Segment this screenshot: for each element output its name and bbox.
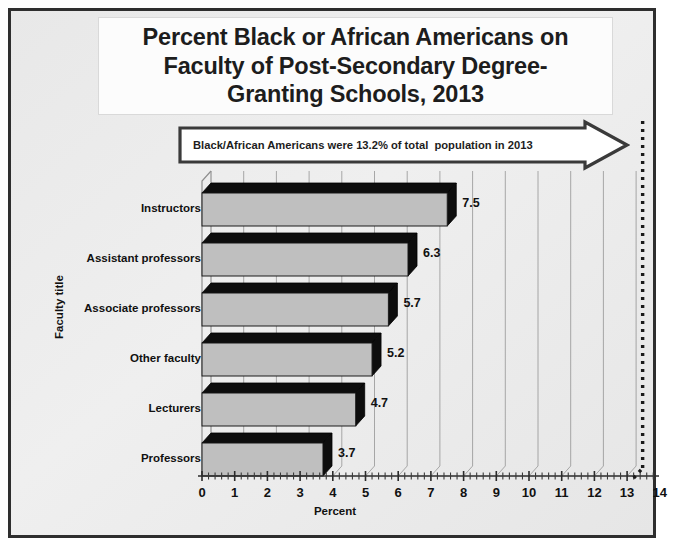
bar-value-label: 5.2 xyxy=(387,346,404,360)
bar-value-label: 3.7 xyxy=(338,446,355,460)
bar-front-face xyxy=(202,443,323,476)
bar-top-face xyxy=(202,333,381,343)
bar xyxy=(202,333,381,376)
gridline xyxy=(300,171,309,476)
x-axis-tick-label: 12 xyxy=(587,485,601,500)
bar-top-face xyxy=(202,283,397,293)
x-axis-tick-label: 7 xyxy=(427,485,434,500)
x-axis-tick-label: 11 xyxy=(555,485,569,500)
gridline xyxy=(529,171,538,476)
reference-line-group xyxy=(634,118,643,478)
y-axis-title: Faculty title xyxy=(53,247,65,367)
bar xyxy=(202,283,397,326)
page-title-line: Percent Black or African Americans on xyxy=(143,23,569,52)
bar-front-face xyxy=(202,393,356,426)
x-axis-tick-label: 2 xyxy=(264,485,271,500)
gridline xyxy=(431,171,440,476)
x-axis-tick-label: 1 xyxy=(231,485,238,500)
x-axis-tick-label: 13 xyxy=(620,485,634,500)
bar-side-face xyxy=(323,433,332,476)
bar-side-face xyxy=(447,183,456,226)
x-axis-tick-label: 9 xyxy=(493,485,500,500)
bar-value-label: 5.7 xyxy=(403,296,420,310)
bar-front-face xyxy=(202,243,408,276)
chart-frame: InstructorsAssistant professorsAssociate… xyxy=(8,8,656,538)
category-axis-label: Instructors xyxy=(31,202,201,214)
page-title-line: Granting Schools, 2013 xyxy=(143,80,569,109)
category-axis-label: Lecturers xyxy=(31,402,201,414)
page-title: Percent Black or African Americans onFac… xyxy=(137,23,575,109)
bar-front-face xyxy=(202,293,388,326)
x-axis-tick-label: 14 xyxy=(653,485,667,500)
category-axis-label: Professors xyxy=(31,452,201,464)
bar-front-face xyxy=(202,343,372,376)
gridline xyxy=(202,171,211,476)
bar xyxy=(202,233,417,276)
axis-group xyxy=(198,471,659,481)
bar-side-face xyxy=(388,283,397,326)
bar-side-face xyxy=(356,383,365,426)
x-axis-tick-label: 10 xyxy=(522,485,536,500)
x-axis-tick-label: 4 xyxy=(329,485,336,500)
page-title-line: Faculty of Post-Secondary Degree- xyxy=(143,52,569,81)
bar-value-label: 6.3 xyxy=(423,246,440,260)
bar-top-face xyxy=(202,183,456,193)
gridline xyxy=(627,171,636,476)
bar-side-face xyxy=(408,233,417,276)
bar-value-label: 4.7 xyxy=(371,396,388,410)
gridline xyxy=(496,171,505,476)
bar xyxy=(202,183,456,226)
gridline xyxy=(594,171,603,476)
x-axis-tick-label: 0 xyxy=(198,485,205,500)
bar-top-face xyxy=(202,383,365,393)
x-axis-tick-label: 5 xyxy=(362,485,369,500)
gridlines-group xyxy=(202,171,659,476)
chart-page: InstructorsAssistant professorsAssociate… xyxy=(0,0,689,552)
bar xyxy=(202,383,365,426)
x-axis-title: Percent xyxy=(11,505,659,517)
bar-front-face xyxy=(202,193,447,226)
gridline xyxy=(333,171,342,476)
gridline xyxy=(398,171,407,476)
axis-wall-edge xyxy=(202,171,211,476)
bar-side-face xyxy=(372,333,381,376)
gridline xyxy=(235,171,244,476)
x-axis-tick-label: 8 xyxy=(460,485,467,500)
x-axis-tick-label: 3 xyxy=(296,485,303,500)
bars-group xyxy=(202,183,456,476)
gridline xyxy=(366,171,375,476)
gridline xyxy=(464,171,473,476)
bar-top-face xyxy=(202,433,332,443)
gridline xyxy=(267,171,276,476)
bar-value-label: 7.5 xyxy=(462,196,479,210)
x-axis-tick-label: 6 xyxy=(395,485,402,500)
reference-line-base xyxy=(634,468,643,478)
gridline xyxy=(562,171,571,476)
annotation-arrow-banner: Black/African Americans were 13.2% of to… xyxy=(177,119,630,171)
chart-title-box: Percent Black or African Americans onFac… xyxy=(98,17,613,115)
annotation-banner-text: Black/African Americans were 13.2% of to… xyxy=(193,119,583,171)
bar xyxy=(202,433,332,476)
bar-top-face xyxy=(202,233,417,243)
